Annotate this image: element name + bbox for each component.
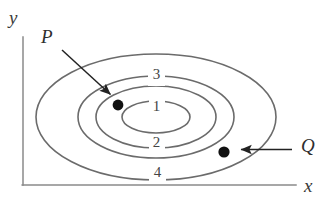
y-axis-label: y <box>9 8 17 27</box>
contour-label-3: 3 <box>148 67 165 82</box>
point-marker-p <box>113 100 124 111</box>
x-axis-label: x <box>304 176 312 195</box>
point-marker-q <box>218 146 229 157</box>
contour-label-1: 1 <box>148 99 165 114</box>
contour-label-2: 2 <box>148 135 165 150</box>
arrow-to-point-p <box>62 50 111 95</box>
contour-label-4: 4 <box>149 165 166 180</box>
contour-plot-figure: y x P Q 3 1 2 4 <box>0 0 332 199</box>
point-label-p: P <box>41 27 53 46</box>
point-label-q: Q <box>301 136 315 155</box>
annotation-arrows-group <box>62 50 292 150</box>
